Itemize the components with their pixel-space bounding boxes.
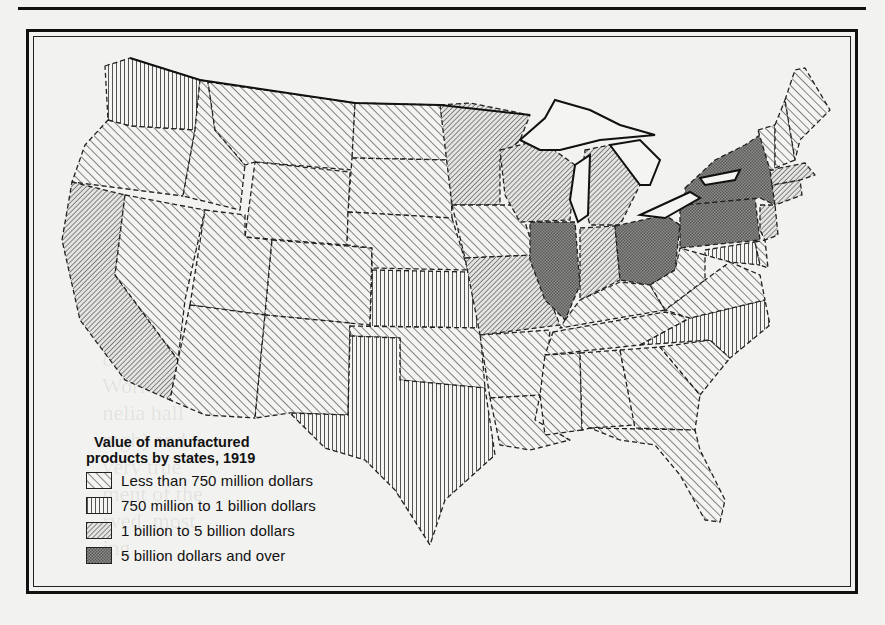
- state-south-dakota: [348, 158, 452, 218]
- state-north-dakota: [352, 103, 450, 160]
- vertical-lines-swatch-icon: [86, 497, 112, 514]
- legend-label: 750 million to 1 billion dollars: [121, 497, 316, 514]
- state-wyoming: [245, 162, 350, 245]
- legend-item-750m-to-1b: 750 million to 1 billion dollars: [86, 494, 316, 516]
- state-arizona: [170, 305, 265, 418]
- state-new-jersey: [760, 205, 778, 240]
- legend-label: 5 billion dollars and over: [121, 547, 285, 564]
- map-legend: Value of manufactured products by states…: [86, 434, 316, 566]
- legend-label: Less than 750 million dollars: [121, 472, 313, 489]
- state-pennsylvania: [680, 198, 760, 248]
- legend-title-line1: Value of manufactured: [94, 434, 316, 450]
- state-colorado: [265, 240, 372, 325]
- state-new-mexico: [255, 315, 350, 418]
- legend-label: 1 billion to 5 billion dollars: [121, 522, 295, 539]
- state-new-york: [685, 135, 775, 205]
- state-arkansas: [480, 330, 550, 398]
- state-florida: [590, 428, 725, 522]
- legend-item-5b-and-over: 5 billion dollars and over: [86, 544, 316, 566]
- hatch-light-swatch-icon: [86, 472, 112, 489]
- state-mississippi: [540, 353, 582, 435]
- legend-item-less-than-750m: Less than 750 million dollars: [86, 469, 316, 491]
- state-kansas: [370, 270, 480, 328]
- state-maryland: [705, 242, 760, 265]
- state-oregon: [72, 120, 195, 196]
- hatch-dense-swatch-icon: [86, 522, 112, 539]
- legend-item-1b-to-5b: 1 billion to 5 billion dollars: [86, 519, 316, 541]
- state-washington: [105, 58, 200, 130]
- legend-title-line2: products by states, 1919: [86, 450, 316, 466]
- crosshatch-swatch-icon: [86, 547, 112, 564]
